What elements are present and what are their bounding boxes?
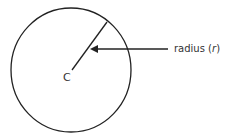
center-label: C [63,72,71,84]
radius-label: radius (r) [174,43,220,55]
circle [11,8,131,132]
radius-label-prefix: radius ( [174,43,212,54]
circle-diagram [0,0,231,136]
radius-line [72,22,107,70]
arrowhead-icon [90,45,98,53]
radius-label-suffix: ) [216,43,220,54]
